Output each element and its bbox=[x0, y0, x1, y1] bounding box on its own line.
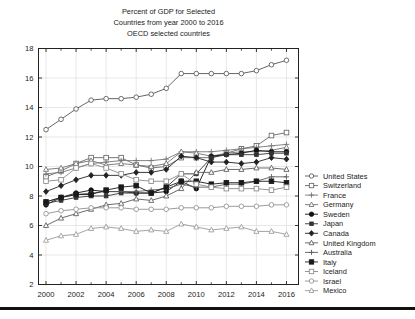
x-tick-label-2: 2004 bbox=[98, 290, 115, 299]
legend-item-canada[interactable]: Canada bbox=[305, 229, 350, 238]
legend-item-iceland[interactable]: Iceland bbox=[305, 267, 347, 276]
x-tick-label-0: 2000 bbox=[38, 290, 55, 299]
y-tick-label-5: 12 bbox=[25, 133, 33, 142]
legend-label: United Kingdom bbox=[323, 239, 376, 248]
legend-item-israel[interactable]: Israel bbox=[305, 277, 341, 286]
y-tick-label-4: 10 bbox=[25, 162, 33, 171]
legend-item-france[interactable]: France bbox=[305, 191, 346, 200]
legend-item-united-states[interactable]: United States bbox=[305, 172, 368, 181]
legend-label: Japan bbox=[323, 219, 343, 228]
legend-label: Canada bbox=[323, 229, 350, 238]
chart-legend: United StatesSwitzerlandFranceGermanySwe… bbox=[305, 172, 376, 296]
y-tick-label-6: 14 bbox=[25, 103, 33, 112]
x-tick-label-5: 2010 bbox=[188, 290, 205, 299]
chart-title: Percent of GDP for SelectedCountries fro… bbox=[113, 7, 223, 38]
y-tick-label-1: 4 bbox=[29, 251, 33, 260]
legend-item-italy[interactable]: Italy bbox=[305, 258, 337, 267]
legend-label: United States bbox=[323, 172, 368, 181]
legend-item-germany[interactable]: Germany bbox=[305, 200, 354, 209]
x-tick-label-8: 2016 bbox=[278, 290, 295, 299]
legend-item-japan[interactable]: Japan bbox=[305, 219, 343, 228]
y-tick-label-2: 6 bbox=[29, 221, 33, 230]
legend-item-sweden[interactable]: Sweden bbox=[305, 210, 350, 219]
x-tick-label-7: 2014 bbox=[248, 290, 265, 299]
chart-figure: Percent of GDP for SelectedCountries fro… bbox=[0, 0, 415, 319]
legend-label: Mexico bbox=[323, 286, 346, 295]
legend-label: Australia bbox=[323, 248, 353, 257]
x-tick-label-4: 2008 bbox=[158, 290, 175, 299]
x-tick-label-3: 2006 bbox=[128, 290, 145, 299]
legend-label: Iceland bbox=[323, 267, 347, 276]
legend-item-mexico[interactable]: Mexico bbox=[305, 286, 346, 295]
legend-item-australia[interactable]: Australia bbox=[305, 248, 353, 257]
legend-label: Italy bbox=[323, 258, 337, 267]
legend-label: Switzerland bbox=[323, 181, 361, 190]
legend-label: France bbox=[323, 191, 346, 200]
legend-label: Israel bbox=[323, 277, 341, 286]
legend-item-united-kingdom[interactable]: United Kingdom bbox=[305, 239, 376, 248]
y-tick-label-8: 18 bbox=[25, 44, 33, 53]
chart-title-line-0: Percent of GDP for Selected bbox=[122, 7, 215, 16]
legend-label: Sweden bbox=[323, 210, 350, 219]
y-tick-label-0: 2 bbox=[29, 280, 33, 289]
y-tick-label-3: 8 bbox=[29, 192, 33, 201]
chart-title-line-2: OECD selected countries bbox=[127, 29, 210, 38]
y-tick-label-7: 16 bbox=[25, 74, 33, 83]
legend-label: Germany bbox=[323, 200, 354, 209]
bottom-rule-divider bbox=[0, 307, 415, 310]
x-tick-label-1: 2002 bbox=[68, 290, 85, 299]
legend-item-switzerland[interactable]: Switzerland bbox=[305, 181, 361, 190]
line-chart: Percent of GDP for SelectedCountries fro… bbox=[0, 0, 415, 310]
x-tick-label-6: 2012 bbox=[218, 290, 235, 299]
chart-title-line-1: Countries from year 2000 to 2016 bbox=[113, 18, 223, 27]
